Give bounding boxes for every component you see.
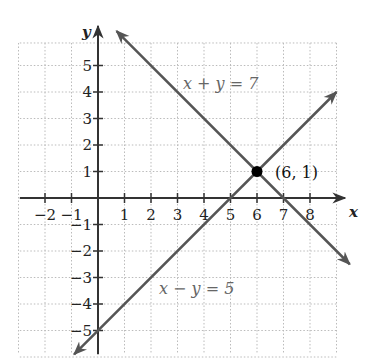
y-tick-label: 2 [82, 136, 92, 154]
x-tick-label: 5 [226, 206, 236, 224]
point-label: (6, 1) [275, 163, 318, 182]
x-tick-label: 6 [252, 206, 262, 224]
y-tick-label: −2 [70, 242, 92, 260]
y-axis-label: y [81, 23, 92, 41]
equation-label-2: x − y = 5 [159, 279, 234, 298]
x-tick-label: 7 [279, 206, 289, 224]
y-tick-label: −4 [70, 295, 92, 313]
x-tick-label: 2 [146, 206, 156, 224]
points [252, 166, 263, 177]
line-series-1 [117, 31, 350, 264]
equation-label-1: x + y = 7 [183, 74, 259, 93]
x-tick-label: 1 [120, 206, 130, 224]
line-series-2 [74, 92, 336, 354]
y-tick-label: 1 [82, 163, 92, 181]
y-tick-label: 4 [82, 83, 92, 101]
x-tick-label: 3 [173, 206, 183, 224]
x-tick-label: −2 [34, 206, 56, 224]
intersection-point [252, 166, 263, 177]
y-tick-label: −1 [70, 216, 92, 234]
y-tick-label: 5 [82, 57, 92, 75]
x-axis-label: x [348, 203, 359, 221]
y-tick-label: −3 [70, 269, 92, 287]
y-tick-label: 3 [82, 110, 92, 128]
y-tick-label: −5 [70, 322, 92, 340]
coordinate-plane: −2−11234567854321−1−2−3−4−5 x y x + y = … [0, 0, 369, 364]
